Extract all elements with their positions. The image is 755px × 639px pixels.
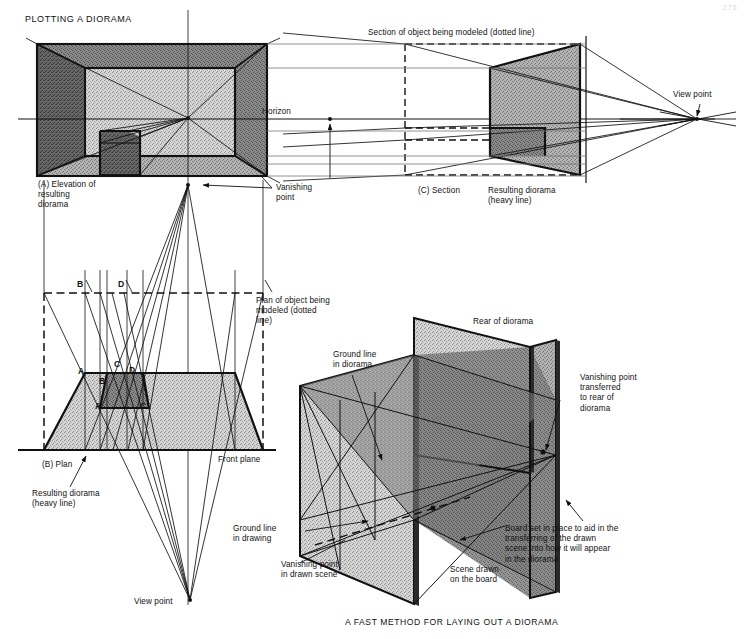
horizon-label: Horizon — [262, 107, 291, 117]
plan-upper-vanishing-point — [186, 183, 190, 187]
vanishing-point-transferred-label: Vanishing point transferred to rear of d… — [580, 373, 637, 414]
board-set-in-place-label: Board set in place to aid in the transfe… — [505, 524, 618, 565]
plan-key-label: (B) Plan — [42, 460, 72, 470]
ground-line-in-diorama-label: Ground line in diorama — [333, 350, 376, 370]
rear-of-diorama-label: Rear of diorama — [473, 317, 533, 327]
section-key-label: (C) Section — [418, 186, 460, 196]
section-view — [267, 33, 736, 183]
plan-point-C-mid: C — [114, 359, 120, 369]
plan-point-A-mid: A — [78, 366, 84, 376]
plan-point-C-low: C — [140, 401, 146, 411]
vanishing-point-in-drawn-scene-label: Vanishing point in drawn scene — [281, 560, 338, 580]
plan-point-B-upper: B — [77, 279, 83, 289]
vanishing-point-label: Vanishing point — [276, 183, 312, 203]
section-result-label: Resulting diorama (heavy line) — [488, 186, 556, 206]
figure-caption: A FAST METHOD FOR LAYING OUT A DIORAMA — [345, 617, 558, 627]
section-object-label: Section of object being modeled (dotted … — [368, 28, 535, 38]
plan-point-B-mid: B — [99, 376, 105, 386]
page-number: 275 — [723, 4, 738, 11]
section-view-point-label: View point — [673, 90, 712, 100]
elevation-vanishing-point — [186, 116, 190, 120]
figure-title: PLOTTING A DIORAMA — [25, 14, 132, 24]
plan-view-point-label: View point — [134, 597, 173, 607]
plan-result-label: Resulting diorama (heavy line) — [32, 489, 100, 509]
front-plane-label: Front plane — [218, 455, 261, 465]
section-view-point — [695, 117, 699, 121]
vanishing-point-in-drawn-scene — [430, 505, 435, 510]
plan-view-point — [188, 598, 192, 602]
figure-page: PLOTTING A DIORAMA 275 (A) Elevation of … — [0, 0, 755, 639]
plan-point-D-upper: D — [118, 279, 124, 289]
vanishing-point-transferred — [540, 449, 545, 454]
plan-point-D-mid: D — [129, 365, 135, 375]
ground-line-in-drawing-label: Ground line in drawing — [233, 524, 276, 544]
elevation-key-label: (A) Elevation of resulting diorama — [38, 180, 96, 211]
plan-point-A-low: A — [95, 401, 101, 411]
diorama-technical-illustration — [0, 0, 755, 639]
scene-drawn-on-board-label: Scene drawn on the board — [450, 565, 499, 585]
plan-object-label: Plan of object being modeled (dotted lin… — [256, 296, 330, 327]
